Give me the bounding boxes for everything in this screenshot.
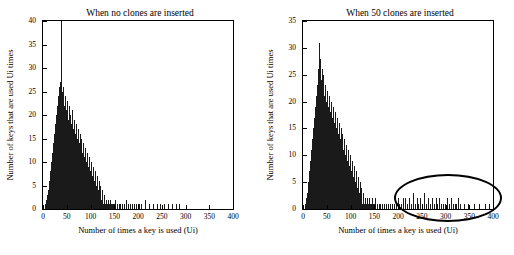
y-tick-mark xyxy=(303,128,307,129)
histogram-bar xyxy=(157,204,158,209)
chart-panel-no-clones: When no clones are inserted Number of ke… xyxy=(6,6,242,246)
x-tick-label: 250 xyxy=(152,213,172,221)
y-tick-label: 10 xyxy=(14,158,36,166)
x-tick-mark xyxy=(138,205,139,209)
histogram-bar xyxy=(179,204,180,209)
y-tick-label: 0 xyxy=(274,205,296,213)
histogram-bar xyxy=(153,204,154,209)
y-tick-mark xyxy=(43,115,47,116)
histogram-bars-left xyxy=(43,21,233,209)
y-tick-mark xyxy=(303,21,307,22)
x-tick-mark xyxy=(374,205,375,209)
y-tick-label: 40 xyxy=(14,17,36,25)
x-tick-label: 0 xyxy=(293,213,313,221)
y-tick-label: 20 xyxy=(14,111,36,119)
y-tick-label: 30 xyxy=(274,44,296,52)
histogram-bar xyxy=(139,204,140,209)
x-tick-mark xyxy=(162,205,163,209)
x-tick-label: 150 xyxy=(104,213,124,221)
histogram-bar xyxy=(168,204,169,209)
x-tick-mark xyxy=(43,205,44,209)
x-tick-mark xyxy=(327,205,328,209)
x-tick-label: 100 xyxy=(81,213,101,221)
figure-root: When no clones are inserted Number of ke… xyxy=(0,0,514,255)
x-tick-label: 0 xyxy=(33,213,53,221)
histogram-bar xyxy=(176,204,177,209)
histogram-bar xyxy=(124,204,125,209)
histogram-bar xyxy=(130,204,131,209)
histogram-bar xyxy=(117,204,118,209)
x-tick-label: 50 xyxy=(57,213,77,221)
x-tick-label: 400 xyxy=(223,213,243,221)
y-tick-mark xyxy=(43,21,47,22)
x-tick-mark xyxy=(186,205,187,209)
x-tick-label: 300 xyxy=(176,213,196,221)
histogram-bar xyxy=(126,200,127,209)
y-tick-mark xyxy=(303,155,307,156)
x-tick-mark xyxy=(91,205,92,209)
annotation-ellipse xyxy=(394,174,502,222)
y-tick-label: 5 xyxy=(274,178,296,186)
histogram-bar xyxy=(122,204,123,209)
y-tick-label: 35 xyxy=(14,41,36,49)
histogram-bar xyxy=(382,204,383,209)
chart-title-right: When 50 clones are inserted xyxy=(302,6,498,20)
x-tick-label: 200 xyxy=(388,213,408,221)
x-axis-label-left: Number of times a key is used (Ui) xyxy=(42,224,234,236)
x-tick-label: 100 xyxy=(341,213,361,221)
histogram-bar xyxy=(119,204,120,209)
histogram-bar xyxy=(392,204,393,209)
histogram-bar xyxy=(379,204,380,209)
x-tick-label: 350 xyxy=(199,213,219,221)
y-tick-label: 25 xyxy=(274,71,296,79)
x-tick-label: 50 xyxy=(317,213,337,221)
y-tick-label: 0 xyxy=(14,205,36,213)
y-tick-label: 5 xyxy=(14,182,36,190)
y-tick-mark xyxy=(303,182,307,183)
y-tick-mark xyxy=(43,92,47,93)
histogram-bar xyxy=(145,200,146,209)
histogram-bar xyxy=(132,204,133,209)
y-tick-label: 25 xyxy=(14,88,36,96)
x-tick-label: 200 xyxy=(128,213,148,221)
histogram-bar xyxy=(388,204,389,209)
chart-panel-50-clones: When 50 clones are inserted Number of ke… xyxy=(266,6,502,246)
histogram-bar xyxy=(394,204,395,209)
plot-area-left xyxy=(42,20,234,210)
x-tick-mark xyxy=(67,205,68,209)
histogram-bar xyxy=(134,204,135,209)
y-tick-label: 15 xyxy=(274,124,296,132)
y-tick-mark xyxy=(303,48,307,49)
y-tick-label: 15 xyxy=(14,135,36,143)
histogram-bar xyxy=(384,204,385,209)
y-tick-mark xyxy=(43,162,47,163)
x-tick-mark xyxy=(114,205,115,209)
x-tick-mark xyxy=(351,205,352,209)
histogram-bar xyxy=(141,204,142,209)
y-tick-mark xyxy=(303,209,307,210)
histogram-bar xyxy=(380,204,381,209)
x-axis-label-right: Number of times a key is used (Ui) xyxy=(302,224,494,236)
y-tick-label: 30 xyxy=(14,64,36,72)
y-tick-label: 35 xyxy=(274,17,296,25)
y-tick-label: 20 xyxy=(274,98,296,106)
histogram-bar xyxy=(172,204,173,209)
y-tick-mark xyxy=(43,45,47,46)
y-tick-mark xyxy=(43,68,47,69)
histogram-bar xyxy=(386,204,387,209)
x-tick-mark xyxy=(209,205,210,209)
x-tick-label: 150 xyxy=(364,213,384,221)
x-tick-mark xyxy=(233,205,234,209)
y-tick-mark xyxy=(43,139,47,140)
histogram-bar xyxy=(120,204,121,209)
histogram-bar xyxy=(136,204,137,209)
y-tick-mark xyxy=(43,186,47,187)
histogram-bar xyxy=(128,204,129,209)
x-tick-mark xyxy=(303,205,304,209)
y-tick-mark xyxy=(303,102,307,103)
histogram-bar xyxy=(164,204,165,209)
histogram-bar xyxy=(149,204,150,209)
chart-title-left: When no clones are inserted xyxy=(42,6,238,20)
histogram-bar xyxy=(377,204,378,209)
histogram-bar xyxy=(390,204,391,209)
